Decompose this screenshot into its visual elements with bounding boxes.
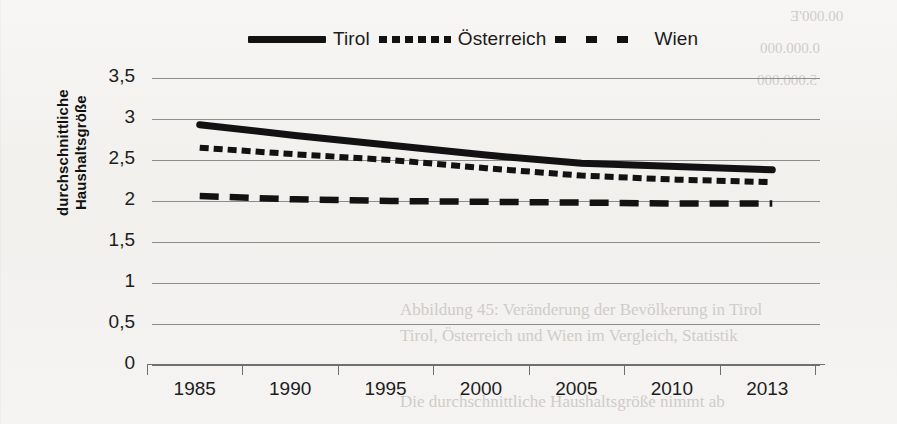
series-lines [0, 0, 897, 424]
series-line-wien [200, 196, 773, 203]
line-chart: Tirol Österreich Wien durchschnittliche … [0, 0, 897, 424]
series-line-tirol [200, 125, 773, 170]
